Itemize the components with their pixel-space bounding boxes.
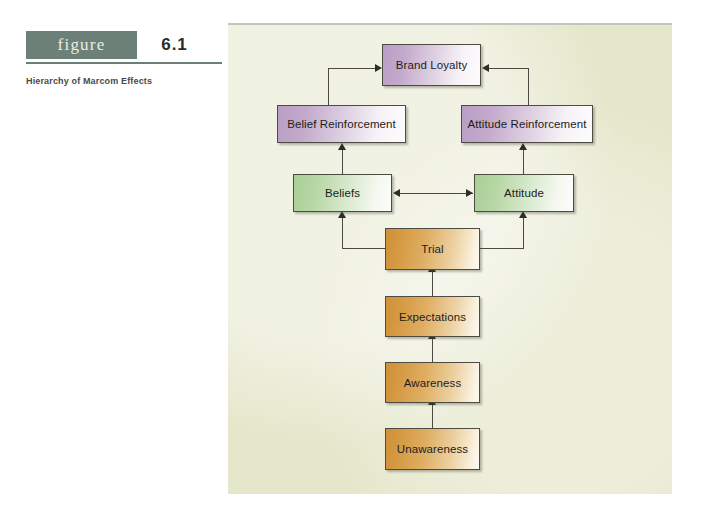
node-trial[interactable]: Trial xyxy=(385,228,480,270)
edge-beliefs-attitude-line xyxy=(398,193,473,194)
edge-belief-reinforcement-brand-loyalty-vertical xyxy=(328,68,329,105)
edge-attitude-attitude-reinforcement-arrowhead xyxy=(519,143,527,150)
node-unawareness-label: Unawareness xyxy=(397,443,468,455)
node-trial-label: Trial xyxy=(421,243,443,255)
node-brand-loyalty[interactable]: Brand Loyalty xyxy=(382,44,481,86)
figure-tag-label: figure xyxy=(26,31,137,59)
node-awareness-label: Awareness xyxy=(404,377,462,389)
figure-caption: Hierarchy of Marcom Effects xyxy=(26,76,226,86)
node-beliefs[interactable]: Beliefs xyxy=(293,174,392,212)
edge-trial-beliefs-arrowhead xyxy=(338,211,346,218)
node-beliefs-label: Beliefs xyxy=(325,187,360,199)
edge-attitude-attitude-reinforcement-line xyxy=(523,149,524,174)
node-attitude-label: Attitude xyxy=(504,187,544,199)
page-root: figure 6.1 Hierarchy of Marcom Effects xyxy=(0,0,703,517)
node-belief-reinforcement-label: Belief Reinforcement xyxy=(287,118,396,130)
edge-belief-reinforcement-brand-loyalty-horizontal xyxy=(328,68,377,69)
node-awareness[interactable]: Awareness xyxy=(385,362,480,403)
edge-beliefs-attitude-arrowhead-right xyxy=(466,189,473,197)
edge-trial-attitude-horizontal xyxy=(480,248,524,249)
diagram-panel: Brand Loyalty Belief Reinforcement Attit… xyxy=(228,25,672,494)
node-belief-reinforcement[interactable]: Belief Reinforcement xyxy=(277,105,406,143)
edge-attitude-reinforcement-brand-loyalty-horizontal xyxy=(488,68,529,69)
node-unawareness[interactable]: Unawareness xyxy=(385,428,480,470)
edge-beliefs-attitude-arrowhead-left xyxy=(393,189,400,197)
edge-trial-beliefs-horizontal xyxy=(342,248,385,249)
edge-trial-beliefs-vertical xyxy=(342,217,343,249)
node-expectations-label: Expectations xyxy=(399,311,466,323)
node-brand-loyalty-label: Brand Loyalty xyxy=(396,59,468,71)
edge-attitude-reinforcement-brand-loyalty-vertical xyxy=(528,68,529,105)
figure-header: figure 6.1 xyxy=(26,31,212,59)
figure-rule-divider xyxy=(26,62,222,64)
node-attitude-reinforcement-label: Attitude Reinforcement xyxy=(467,118,586,130)
edge-belief-reinforcement-brand-loyalty-arrowhead xyxy=(375,64,382,72)
figure-number: 6.1 xyxy=(137,31,212,59)
node-attitude[interactable]: Attitude xyxy=(474,174,574,212)
edge-attitude-reinforcement-brand-loyalty-arrowhead xyxy=(482,64,489,72)
node-expectations[interactable]: Expectations xyxy=(385,296,480,337)
edge-beliefs-belief-reinforcement-line xyxy=(342,149,343,174)
node-attitude-reinforcement[interactable]: Attitude Reinforcement xyxy=(461,105,593,143)
edge-beliefs-belief-reinforcement-arrowhead xyxy=(338,143,346,150)
edge-trial-attitude-vertical xyxy=(523,217,524,249)
edge-trial-attitude-arrowhead xyxy=(519,211,527,218)
